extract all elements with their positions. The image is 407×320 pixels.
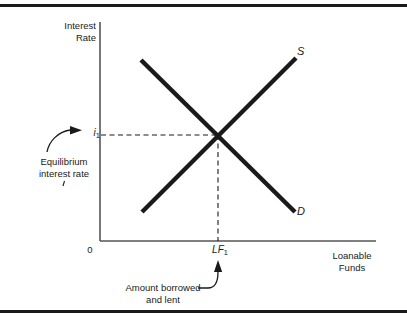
equilibrium-quantity-label: LF1	[200, 244, 240, 257]
demand-curve-label: D	[297, 206, 311, 218]
equilibrium-interest-rate-subscript: 1	[96, 131, 100, 140]
equilibrium-annotation-line2: interest rate	[39, 168, 89, 179]
amount-annotation-line2: and lent	[146, 294, 180, 305]
equilibrium-quantity-subscript: 1	[224, 248, 228, 257]
stray-tick-mark	[63, 181, 65, 186]
loanable-funds-figure: InterestRate LoanableFunds 0 i1 LF1 S D …	[0, 0, 407, 320]
equilibrium-annotation-text: Equilibriuminterest rate	[23, 156, 105, 179]
y-axis-label-line1: Interest	[64, 20, 96, 31]
amount-annotation-text: Amount borrowedand lent	[102, 282, 224, 305]
x-axis-label-line2: Funds	[339, 262, 365, 273]
x-axis-label-line1: Loanable	[332, 250, 371, 261]
y-axis-label: InterestRate	[30, 20, 96, 43]
equilibrium-annotation-arrow	[47, 130, 70, 152]
x-axis-label: LoanableFunds	[316, 250, 388, 273]
amount-annotation-arrowhead	[214, 260, 222, 272]
equilibrium-annotation-line1: Equilibrium	[41, 156, 88, 167]
equilibrium-interest-rate-label: i1	[86, 127, 100, 140]
equilibrium-quantity-symbol: LF	[212, 244, 224, 255]
origin-label: 0	[84, 244, 96, 256]
amount-annotation-line1: Amount borrowed	[126, 282, 201, 293]
supply-curve-label: S	[297, 46, 311, 58]
equilibrium-annotation-arrowhead	[70, 126, 82, 135]
y-axis-label-line2: Rate	[76, 32, 96, 43]
